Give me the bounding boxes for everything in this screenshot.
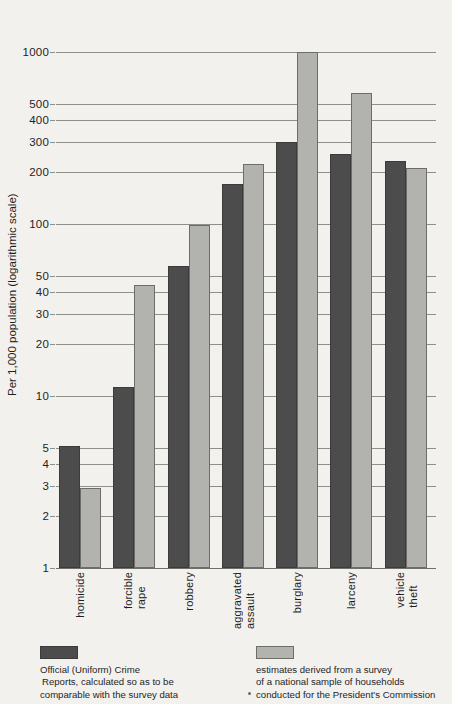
category-label-larceny: larceny [330, 572, 372, 636]
y-tick-label: 1 [42, 562, 49, 574]
y-tick-mark [50, 104, 55, 105]
y-tick-label: 100 [29, 218, 49, 230]
bar-official-forcible-rape [113, 387, 134, 568]
bar-official-homicide [59, 446, 80, 568]
y-tick-label: 3 [42, 480, 49, 492]
y-tick-mark [50, 314, 55, 315]
bar-group-burglary [276, 40, 318, 568]
category-axis-labels: homicideforcibleraperobberyaggravatedass… [56, 572, 436, 638]
y-tick-mark [50, 516, 55, 517]
category-label-line: vehicle [393, 572, 405, 608]
page-footer-dot [248, 692, 251, 695]
legend-item-survey: estimates derived from a survey of a nat… [256, 646, 438, 701]
legend-label-survey-line2: of a national sample of households [256, 676, 438, 688]
y-tick-mark [50, 52, 55, 53]
legend-label-official-line1: Official (Uniform) Crime [40, 664, 222, 676]
category-label-line: aggravated [230, 572, 242, 629]
y-tick-mark [50, 448, 55, 449]
legend-swatch-official [40, 646, 78, 659]
y-tick-label: 5 [42, 442, 49, 454]
category-label-line: robbery [183, 572, 195, 611]
bar-official-larceny [330, 154, 351, 568]
y-tick-label: 20 [36, 338, 49, 350]
y-tick-mark [50, 142, 55, 143]
plot-area: 1234510203040501002003004005001000 [56, 40, 436, 568]
bar-group-vehicle-theft [385, 40, 427, 568]
bar-survey-aggravated-assault [243, 164, 264, 568]
legend-label-survey: estimates derived from a survey of a nat… [256, 664, 438, 701]
legend-swatch-survey [256, 646, 294, 659]
y-tick-mark [50, 486, 55, 487]
bar-group-robbery [168, 40, 210, 568]
y-tick-mark [50, 292, 55, 293]
category-label-vehicle-theft: vehicletheft [385, 572, 427, 636]
legend-item-official: Official (Uniform) Crime Reports, calcul… [40, 646, 222, 701]
y-tick-label: 500 [29, 98, 49, 110]
bar-group-aggravated-assault [222, 40, 264, 568]
x-axis-baseline [56, 568, 436, 569]
y-tick-label: 1000 [23, 46, 49, 58]
bar-official-robbery [168, 266, 189, 568]
category-label-homicide: homicide [59, 572, 101, 636]
y-tick-mark [50, 396, 55, 397]
category-label-line: forcible [122, 572, 134, 609]
bar-survey-larceny [351, 93, 372, 568]
y-tick-label: 4 [42, 458, 49, 470]
chart-page: Per 1,000 population (logarithmic scale)… [0, 0, 452, 704]
bar-group-forcible-rape [113, 40, 155, 568]
category-label-line: larceny [345, 572, 357, 609]
y-tick-label: 400 [29, 114, 49, 126]
bar-survey-forcible-rape [134, 285, 155, 568]
y-tick-label: 40 [36, 286, 49, 298]
y-tick-mark [50, 172, 55, 173]
legend-label-official-line2: Reports, calculated so as to be [40, 676, 222, 688]
category-label-aggravated-assault: aggravatedassault [222, 572, 264, 636]
legend-label-official-line3: comparable with the survey data [40, 689, 222, 701]
y-tick-label: 300 [29, 136, 49, 148]
legend-label-official: Official (Uniform) Crime Reports, calcul… [40, 664, 222, 701]
bar-official-burglary [276, 142, 297, 568]
y-tick-mark [50, 120, 55, 121]
y-tick-label: 50 [36, 270, 49, 282]
y-tick-mark [50, 224, 55, 225]
bar-official-aggravated-assault [222, 184, 243, 568]
bar-survey-homicide [80, 488, 101, 568]
bar-group-homicide [59, 40, 101, 568]
category-label-line: burglary [291, 572, 303, 613]
bar-survey-burglary [297, 52, 318, 568]
y-tick-mark [50, 568, 55, 569]
category-label-burglary: burglary [276, 572, 318, 636]
y-axis-title: Per 1,000 population (logarithmic scale) [6, 380, 18, 396]
category-label-robbery: robbery [168, 572, 210, 636]
y-tick-label: 10 [36, 390, 49, 402]
y-tick-mark [50, 344, 55, 345]
category-label-forcible-rape: forciblerape [113, 572, 155, 636]
legend-label-survey-line1: estimates derived from a survey [256, 664, 438, 676]
y-tick-label: 200 [29, 166, 49, 178]
category-label-line: theft [406, 572, 418, 608]
category-label-line: rape [135, 572, 147, 609]
category-label-line: assault [243, 572, 255, 629]
bar-group-larceny [330, 40, 372, 568]
y-tick-label: 2 [42, 510, 49, 522]
bar-official-vehicle-theft [385, 161, 406, 568]
chart-legend: Official (Uniform) Crime Reports, calcul… [40, 646, 440, 701]
y-tick-label: 30 [36, 308, 49, 320]
legend-label-survey-line3: conducted for the President's Commission [256, 689, 438, 701]
bar-survey-vehicle-theft [406, 168, 427, 568]
y-tick-mark [50, 276, 55, 277]
y-tick-mark [50, 464, 55, 465]
category-label-line: homicide [74, 572, 86, 618]
bar-survey-robbery [189, 225, 210, 568]
